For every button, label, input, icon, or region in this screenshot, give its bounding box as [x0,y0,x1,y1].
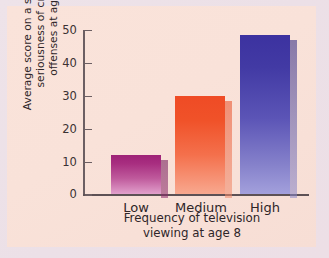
bar-shadow [225,101,232,198]
x-axis-line [83,194,309,196]
y-tick-label: 0 [70,187,77,201]
y-axis-title: Average score on a scale of the seriousn… [21,0,67,111]
y-tick-label: 40 [62,56,77,70]
plot-area: 0 10 20 30 40 50 [83,30,309,196]
bar-shadow [161,160,168,199]
y-tick-label: 30 [62,89,77,103]
y-axis-line [83,30,85,196]
chart-panel: Average score on a scale of the seriousn… [7,6,316,247]
bar-body [111,155,161,195]
bar-high [240,35,290,194]
y-tick-label: 10 [62,155,77,169]
bar-body [175,96,225,194]
bar-shadow [290,40,297,198]
y-tick-label: 50 [62,23,77,37]
x-axis-title: Frequency of television viewing at age 8 [77,211,307,240]
bar-low [111,155,161,195]
y-tick-label: 20 [62,122,77,136]
bar-medium [175,96,225,194]
bar-body [240,35,290,194]
chart-screenshot: Average score on a scale of the seriousn… [0,0,329,258]
